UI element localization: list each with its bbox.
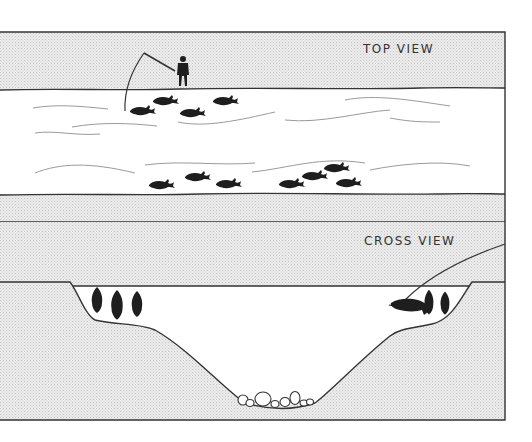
rock <box>290 392 300 405</box>
rock <box>307 399 314 405</box>
top-bank-upper <box>0 32 505 89</box>
rock <box>255 392 271 406</box>
rock <box>280 398 290 407</box>
rock <box>246 400 254 407</box>
top-view-label: TOP VIEW <box>362 42 434 56</box>
angler-head <box>180 56 186 62</box>
top-view-panel: TOP VIEW <box>0 32 505 222</box>
cross-view-panel: CROSS VIEW <box>0 222 505 420</box>
rock <box>271 401 279 408</box>
fishing-river-diagram: TOP VIEW <box>0 0 532 442</box>
top-bank-lower <box>0 194 505 222</box>
river-channel <box>0 89 505 194</box>
cross-view-label: CROSS VIEW <box>364 234 455 248</box>
